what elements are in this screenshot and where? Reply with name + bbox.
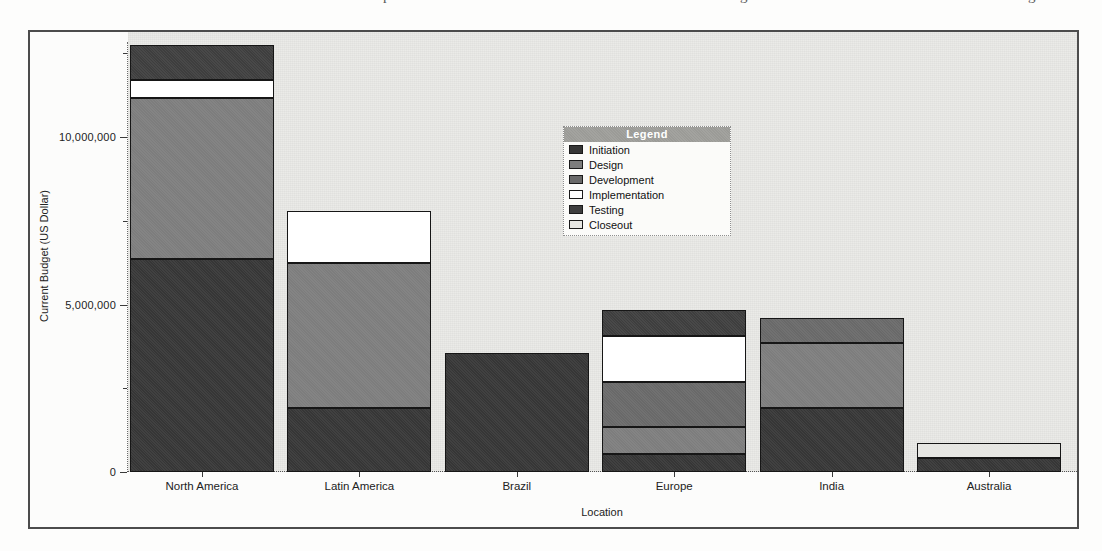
x-tick <box>517 472 518 477</box>
segment-design <box>760 343 904 408</box>
x-axis-title: Location <box>581 506 623 518</box>
legend-title: Legend <box>564 127 730 142</box>
segment-implementation <box>602 336 746 381</box>
bar-brazil <box>445 353 589 472</box>
y-minor-tick <box>123 53 127 54</box>
legend-item-label: Development <box>589 174 654 186</box>
legend-item-design: Design <box>564 157 730 172</box>
legend-item-label: Implementation <box>589 189 664 201</box>
segment-initiation <box>130 259 274 472</box>
x-tick <box>359 472 360 477</box>
x-tick-label: Europe <box>604 480 744 492</box>
cropped-caption-fragment: p <box>383 0 397 7</box>
segment-initiation <box>602 454 746 472</box>
design-swatch <box>569 160 583 169</box>
legend-item-closeout: Closeout <box>564 217 730 232</box>
development-swatch <box>569 175 583 184</box>
bar-india <box>760 318 904 472</box>
x-tick <box>832 472 833 477</box>
segment-testing <box>130 45 274 80</box>
x-tick-label: Brazil <box>447 480 587 492</box>
y-minor-tick <box>123 388 127 389</box>
legend-rows: InitiationDesignDevelopmentImplementatio… <box>564 142 730 232</box>
segment-initiation <box>760 408 904 472</box>
x-tick-label: North America <box>132 480 272 492</box>
legend-item-development: Development <box>564 172 730 187</box>
segment-implementation <box>287 211 431 263</box>
scanned-chart-page: pgg Current Budget (US Dollar) Location … <box>0 0 1102 551</box>
x-tick <box>989 472 990 477</box>
y-minor-tick <box>123 221 127 222</box>
segment-testing <box>602 310 746 337</box>
y-axis-line <box>127 42 128 472</box>
legend-item-label: Design <box>589 159 623 171</box>
segment-initiation <box>445 353 589 472</box>
legend-item-label: Closeout <box>589 219 632 231</box>
legend-item-initiation: Initiation <box>564 142 730 157</box>
initiation-swatch <box>569 145 583 154</box>
testing-swatch <box>569 205 583 214</box>
y-major-tick <box>120 472 127 473</box>
segment-implementation <box>130 80 274 98</box>
cropped-caption-fragment: g <box>1028 0 1042 7</box>
segment-development <box>760 318 904 343</box>
closeout-swatch <box>569 220 583 229</box>
legend-item-label: Initiation <box>589 144 630 156</box>
x-tick-label: Australia <box>919 480 1059 492</box>
bar-australia <box>917 443 1061 472</box>
legend: Legend InitiationDesignDevelopmentImplem… <box>563 126 731 236</box>
y-major-tick <box>120 305 127 306</box>
y-tick-label: 0 <box>24 466 116 478</box>
bar-europe <box>602 310 746 472</box>
cropped-caption-fragment: g <box>740 0 754 7</box>
segment-development <box>602 382 746 427</box>
legend-item-testing: Testing <box>564 202 730 217</box>
x-tick-label: Latin America <box>289 480 429 492</box>
x-tick <box>674 472 675 477</box>
x-tick-label: India <box>762 480 902 492</box>
y-tick-label: 5,000,000 <box>24 299 116 311</box>
legend-item-label: Testing <box>589 204 624 216</box>
segment-design <box>287 263 431 409</box>
y-major-tick <box>120 137 127 138</box>
segment-initiation <box>917 458 1061 472</box>
bar-latin-america <box>287 211 431 472</box>
x-tick <box>202 472 203 477</box>
y-tick-label: 10,000,000 <box>24 131 116 143</box>
segment-design <box>130 98 274 259</box>
implementation-swatch <box>569 190 583 199</box>
bar-north-america <box>130 45 274 472</box>
segment-closeout <box>917 443 1061 458</box>
legend-item-implementation: Implementation <box>564 187 730 202</box>
segment-design <box>602 427 746 454</box>
segment-initiation <box>287 408 431 472</box>
